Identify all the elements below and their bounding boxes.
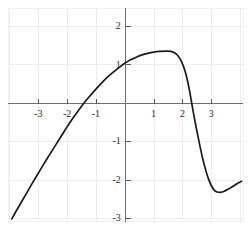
y-tick-label: 1 [116, 60, 121, 70]
x-tick-label: -3 [34, 109, 42, 119]
y-tick-label: -1 [112, 136, 120, 146]
x-tick-label: -1 [92, 109, 100, 119]
y-tick-label: -2 [112, 175, 120, 185]
y-tick-label: -3 [112, 213, 120, 223]
x-tick-label: 2 [180, 109, 185, 119]
x-tick-label: 3 [209, 109, 214, 119]
x-tick-label: -2 [63, 109, 71, 119]
y-tick-label: 2 [116, 21, 121, 31]
graph-figure: -3-2-1123 21-1-2-3 [0, 0, 250, 228]
x-tick-label: 1 [151, 109, 156, 119]
